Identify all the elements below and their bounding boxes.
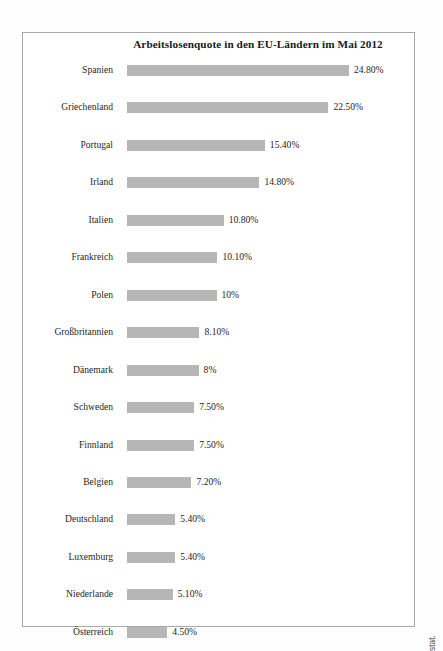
- bar-value-label: 8.10%: [204, 326, 229, 337]
- chart-row: Dänemark8%: [22, 364, 415, 394]
- bar: [127, 477, 191, 488]
- bar: [127, 327, 199, 338]
- chart-row: Griechenland22.50%: [22, 101, 415, 131]
- chart-row: Polen10%: [22, 289, 415, 319]
- category-label: Frankreich: [22, 251, 113, 262]
- bar: [127, 514, 175, 525]
- category-label: Polen: [22, 289, 113, 300]
- category-label: Österreich: [22, 626, 113, 637]
- bar-value-label: 15.40%: [270, 139, 300, 150]
- bar: [127, 215, 224, 226]
- category-label: Irland: [22, 176, 113, 187]
- category-label: Spanien: [22, 64, 113, 75]
- chart-row: Finnland7.50%: [22, 439, 415, 469]
- category-label: Großbritannien: [22, 326, 113, 337]
- figure-page: Arbeitslosenquote in den EU-Ländern im M…: [0, 0, 443, 651]
- bar: [127, 290, 217, 301]
- category-label: Italien: [22, 214, 113, 225]
- bar-value-label: 5.40%: [180, 551, 205, 562]
- bar: [127, 552, 175, 563]
- bar: [127, 589, 173, 600]
- chart-row: Spanien24.80%: [22, 64, 415, 94]
- chart-row: Portugal15.40%: [22, 139, 415, 169]
- chart-row: Italien10.80%: [22, 214, 415, 244]
- chart-row: Irland14.80%: [22, 176, 415, 206]
- chart-row: Belgien7.20%: [22, 476, 415, 506]
- chart-row: Großbritannien8.10%: [22, 326, 415, 356]
- category-label: Portugal: [22, 139, 113, 150]
- bar-value-label: 8%: [204, 364, 217, 375]
- bar-chart-plot-area: Spanien24.80%Griechenland22.50%Portugal1…: [22, 58, 415, 626]
- bar: [127, 65, 349, 76]
- copyright-credit: © Cengage Learning 2014, data from Euros…: [428, 635, 437, 651]
- chart-row: Luxemburg5.40%: [22, 551, 415, 581]
- category-label: Finnland: [22, 439, 113, 450]
- bar: [127, 252, 217, 263]
- bar-value-label: 10%: [222, 289, 240, 300]
- bar-value-label: 22.50%: [333, 101, 363, 112]
- bar-value-label: 5.10%: [178, 588, 203, 599]
- category-label: Dänemark: [22, 364, 113, 375]
- bar-value-label: 14.80%: [264, 176, 294, 187]
- bar: [127, 402, 194, 413]
- bar: [127, 440, 194, 451]
- bar: [127, 177, 259, 188]
- chart-title: Arbeitslosenquote in den EU-Ländern im M…: [108, 38, 408, 50]
- bar-value-label: 10.80%: [229, 214, 259, 225]
- bar-value-label: 5.40%: [180, 513, 205, 524]
- category-label: Luxemburg: [22, 551, 113, 562]
- chart-row: Frankreich10.10%: [22, 251, 415, 281]
- bar-value-label: 7.50%: [199, 439, 224, 450]
- category-label: Schweden: [22, 401, 113, 412]
- chart-row: Deutschland5.40%: [22, 513, 415, 543]
- bar-value-label: 10.10%: [222, 251, 252, 262]
- bar: [127, 365, 199, 376]
- bar-value-label: 7.20%: [196, 476, 221, 487]
- bar-value-label: 4.50%: [172, 626, 197, 637]
- chart-row: Schweden7.50%: [22, 401, 415, 431]
- bar: [127, 627, 167, 638]
- chart-row: Österreich4.50%: [22, 626, 415, 651]
- bar-value-label: 7.50%: [199, 401, 224, 412]
- category-label: Griechenland: [22, 101, 113, 112]
- bar: [127, 102, 328, 113]
- chart-row: Niederlande5.10%: [22, 588, 415, 618]
- bar-value-label: 24.80%: [354, 64, 384, 75]
- category-label: Niederlande: [22, 588, 113, 599]
- category-label: Deutschland: [22, 513, 113, 524]
- bar: [127, 140, 265, 151]
- category-label: Belgien: [22, 476, 113, 487]
